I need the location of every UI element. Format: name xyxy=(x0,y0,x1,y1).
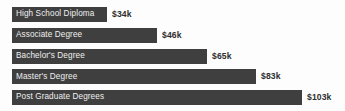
bar-masters-degree[interactable]: Master's Degree xyxy=(12,69,256,84)
chart-bar-row: Master's Degree $83k xyxy=(12,69,345,84)
bar-category-label: Master's Degree xyxy=(16,73,77,81)
bar-category-label: Post Graduate Degrees xyxy=(16,93,104,101)
bar-post-graduate-degrees[interactable]: Post Graduate Degrees xyxy=(12,90,302,105)
bar-value-label: $83k xyxy=(261,72,281,81)
bar-chart: High School Diploma $34k Associate Degre… xyxy=(0,0,345,111)
bar-category-label: Associate Degree xyxy=(16,31,82,39)
bar-bachelors-degree[interactable]: Bachelor's Degree xyxy=(12,49,207,64)
bar-associate-degree[interactable]: Associate Degree xyxy=(12,28,157,43)
chart-bar-row: Associate Degree $46k xyxy=(12,28,345,43)
bar-value-label: $34k xyxy=(112,10,132,19)
chart-bar-row: High School Diploma $34k xyxy=(12,7,345,22)
bar-value-label: $103k xyxy=(307,93,331,102)
bar-value-label: $65k xyxy=(212,52,232,61)
chart-bar-row: Post Graduate Degrees $103k xyxy=(12,90,345,105)
bar-category-label: Bachelor's Degree xyxy=(16,52,85,60)
bar-value-label: $46k xyxy=(162,31,182,40)
chart-bar-row: Bachelor's Degree $65k xyxy=(12,49,345,64)
bar-category-label: High School Diploma xyxy=(16,10,94,18)
bar-high-school-diploma[interactable]: High School Diploma xyxy=(12,7,107,22)
